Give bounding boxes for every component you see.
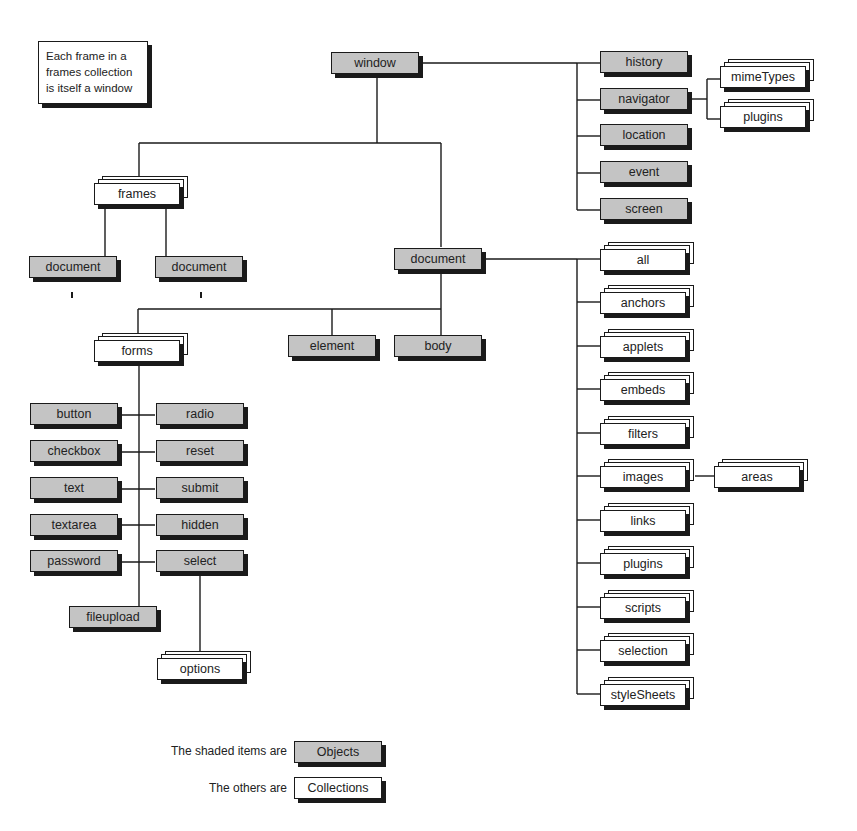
continuation-mark-1 <box>71 292 73 298</box>
node-event[interactable]: event <box>600 161 688 183</box>
note-line-1: Each frame in a <box>46 48 147 64</box>
node-areas[interactable]: areas <box>714 466 800 488</box>
node-document[interactable]: document <box>394 248 482 270</box>
note-line-2: frames collection <box>46 64 147 80</box>
continuation-mark-2 <box>200 292 202 298</box>
node-password[interactable]: password <box>30 550 118 572</box>
node-frame-document-1[interactable]: document <box>29 256 117 278</box>
node-location[interactable]: location <box>600 124 688 146</box>
node-frame-document-2[interactable]: document <box>155 256 243 278</box>
node-styleSheets[interactable]: styleSheets <box>600 684 686 706</box>
node-frames[interactable]: frames <box>94 183 180 205</box>
node-hidden[interactable]: hidden <box>156 514 244 536</box>
node-submit[interactable]: submit <box>156 477 244 499</box>
node-options[interactable]: options <box>157 658 243 680</box>
node-button[interactable]: button <box>30 403 118 425</box>
node-scripts[interactable]: scripts <box>600 597 686 619</box>
node-selection[interactable]: selection <box>600 640 686 662</box>
node-anchors[interactable]: anchors <box>600 292 686 314</box>
node-text[interactable]: text <box>30 477 118 499</box>
legend-objects-swatch: Objects <box>294 741 382 763</box>
node-element[interactable]: element <box>288 335 376 357</box>
legend-collections-text: The others are <box>87 781 287 795</box>
node-mimeTypes[interactable]: mimeTypes <box>720 66 806 88</box>
node-screen[interactable]: screen <box>600 198 688 220</box>
node-all[interactable]: all <box>600 249 686 271</box>
node-checkbox[interactable]: checkbox <box>30 440 118 462</box>
node-history[interactable]: history <box>600 51 688 73</box>
node-select[interactable]: select <box>156 550 244 572</box>
frames-note: Each frame in a frames collection is its… <box>38 41 148 104</box>
note-line-3: is itself a window <box>46 80 147 96</box>
legend-objects-text: The shaded items are <box>87 744 287 758</box>
node-links[interactable]: links <box>600 510 686 532</box>
node-body[interactable]: body <box>394 335 482 357</box>
node-filters[interactable]: filters <box>600 423 686 445</box>
node-document-plugins[interactable]: plugins <box>600 553 686 575</box>
node-forms[interactable]: forms <box>94 340 180 362</box>
node-navigator-plugins[interactable]: plugins <box>720 106 806 128</box>
node-fileupload[interactable]: fileupload <box>69 606 157 628</box>
node-window[interactable]: window <box>331 52 419 74</box>
node-navigator[interactable]: navigator <box>600 88 688 110</box>
legend-collections-swatch: Collections <box>294 777 382 799</box>
node-embeds[interactable]: embeds <box>600 379 686 401</box>
node-applets[interactable]: applets <box>600 336 686 358</box>
node-radio[interactable]: radio <box>156 403 244 425</box>
object-model-diagram: Each frame in a frames collection is its… <box>0 0 857 831</box>
node-reset[interactable]: reset <box>156 440 244 462</box>
node-images[interactable]: images <box>600 466 686 488</box>
node-textarea[interactable]: textarea <box>30 514 118 536</box>
